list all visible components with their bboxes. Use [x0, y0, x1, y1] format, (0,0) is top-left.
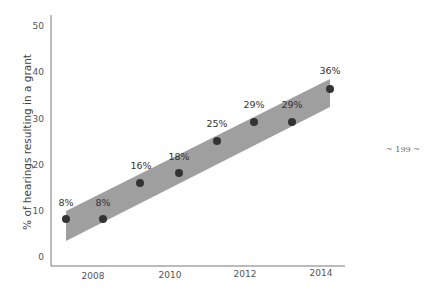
- x-tick: 2014: [310, 268, 333, 278]
- data-label: 29%: [243, 99, 264, 110]
- data-point: [288, 118, 296, 126]
- data-point: [99, 215, 107, 223]
- x-tick: 2008: [82, 271, 105, 281]
- y-axis-label: % of hearings resulting in a grant: [21, 54, 33, 230]
- x-tick: 2012: [234, 269, 257, 279]
- data-label: 16%: [130, 160, 151, 171]
- data-label: 8%: [95, 197, 110, 208]
- y-tick: 20: [33, 160, 45, 170]
- y-tick: 40: [33, 67, 45, 77]
- data-point: [136, 179, 144, 187]
- x-tick: 2010: [159, 270, 182, 280]
- data-point: [62, 215, 70, 223]
- y-tick: 50: [33, 21, 45, 31]
- data-point: [250, 118, 258, 126]
- data-label: 8%: [58, 197, 73, 208]
- data-point: [326, 85, 334, 93]
- data-label: 25%: [206, 118, 227, 129]
- data-label: 29%: [281, 99, 302, 110]
- data-point: [175, 169, 183, 177]
- y-tick: 0: [38, 252, 44, 262]
- data-label: 36%: [319, 65, 340, 76]
- data-label: 18%: [168, 151, 189, 162]
- chart: 50 40 30 20 10 0 2008 2010 2012 2014 % o…: [0, 0, 442, 299]
- page-number: ~ 199 ~: [386, 145, 420, 154]
- y-tick: 30: [33, 114, 45, 124]
- data-point: [213, 137, 221, 145]
- y-tick: 10: [33, 206, 45, 216]
